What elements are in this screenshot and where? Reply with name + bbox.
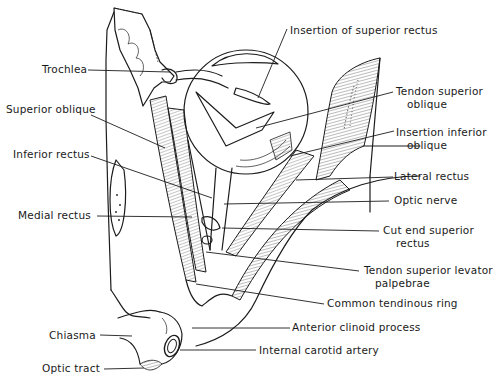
label-anterior-clinoid-process: Anterior clinoid process [292,321,420,334]
chiasma-and-carotid [118,310,182,370]
label-lateral-rectus: Lateral rectus [394,170,469,183]
label-inferior-rectus: Inferior rectus [13,148,90,161]
label-insertion-superior-rectus: Insertion of superior rectus [290,24,438,37]
label-cut-end-superior-rectus-line2: rectus [396,237,430,250]
label-insertion-inferior-oblique: Insertion inferior [396,126,487,139]
label-tendon-superior-levator: Tendon superior levator [364,264,493,277]
eyeball [184,50,308,174]
superior-oblique-tendon [176,70,228,88]
extraocular-muscles [150,96,350,306]
label-trochlea: Trochlea [42,63,87,76]
label-tendon-superior-oblique: Tendon superior [396,85,483,98]
label-chiasma: Chiasma [49,329,96,342]
label-tendon-superior-oblique-line2: oblique [407,98,447,111]
label-cut-end-superior-rectus: Cut end superior [383,224,474,237]
medial-orbital-wall [106,12,150,318]
label-tendon-superior-levator-line2: palpebrae [375,277,430,290]
label-common-tendinous-ring: Common tendinous ring [327,297,458,310]
label-medial-rectus: Medial rectus [18,209,91,222]
label-internal-carotid-artery: Internal carotid artery [259,344,379,357]
label-insertion-inferior-oblique-line2: oblique [407,139,447,152]
label-superior-oblique: Superior oblique [6,103,96,116]
label-optic-nerve: Optic nerve [394,194,457,207]
frontal-bone [114,8,174,106]
label-optic-tract: Optic tract [42,362,100,375]
orbit-anatomy-diagram: Insertion of superior rectus Trochlea Te… [0,0,493,380]
